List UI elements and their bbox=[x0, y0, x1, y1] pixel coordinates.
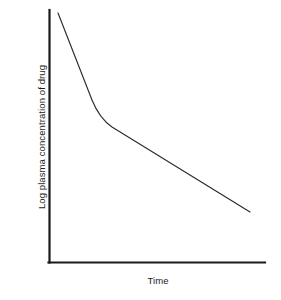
y-axis-label: Log plasma concentration of drug bbox=[36, 57, 47, 217]
concentration-curve bbox=[58, 13, 250, 212]
x-axis-label: Time bbox=[118, 275, 198, 286]
pharmacokinetic-log-concentration-chart: Log plasma concentration of drug Time bbox=[0, 0, 281, 300]
